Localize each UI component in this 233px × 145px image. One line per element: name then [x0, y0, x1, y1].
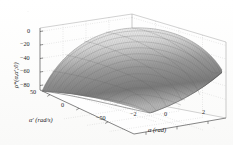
y-tick-label: −50 — [96, 114, 105, 121]
x-tick-label: −2 — [130, 110, 136, 117]
z-tick-label: −80 — [20, 81, 29, 88]
figure-3d-surface-plot: 0 −20 −40 −60 −80 50 0 −50 −2 0 2 ρ*(α,α… — [0, 0, 233, 145]
x-tick-label: 2 — [202, 108, 205, 115]
z-tick-label: 0 — [27, 27, 30, 34]
y-axis-label: α' (rad/s) — [29, 116, 53, 123]
z-tick-label: −40 — [20, 54, 29, 61]
z-axis-label: ρ*(α,α';0) — [12, 62, 19, 88]
y-tick-label: 50 — [30, 88, 36, 95]
z-tick-label: −20 — [20, 40, 29, 47]
x-axis-label: α (rad) — [148, 126, 166, 133]
x-tick-label: 0 — [164, 110, 167, 117]
z-tick-label: −60 — [20, 67, 29, 74]
y-tick-label: 0 — [61, 101, 64, 108]
surface-plot-canvas — [0, 0, 233, 145]
